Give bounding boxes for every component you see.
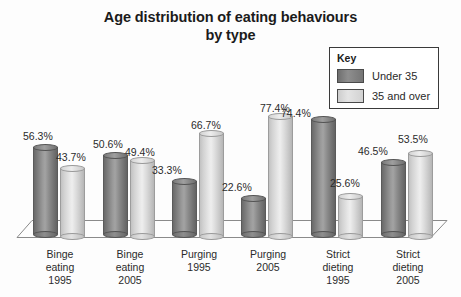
bar-body [241, 198, 266, 234]
bar-bottom-ellipse-icon [381, 231, 406, 238]
value-label-under35-strict-dieting-1995: 74.4% [281, 107, 311, 119]
legend-item-under-35: Under 35 [337, 67, 432, 85]
bar-body [172, 181, 197, 234]
value-label-under35-binge-eating-1995: 56.3% [23, 130, 53, 142]
bar-over35-strict-dieting-2005 [408, 153, 433, 236]
bar-bottom-ellipse-icon [199, 233, 224, 240]
x-label-strict-dieting-2005: Strict dieting 2005 [372, 248, 444, 287]
value-label-over35-binge-eating-1995: 43.7% [56, 151, 86, 163]
value-label-over35-purging-1995: 66.7% [191, 119, 221, 131]
bar-under35-binge-eating-2005 [103, 155, 128, 234]
chart-title: Age distribution of eating behaviours by… [0, 8, 461, 44]
bar-under35-purging-1995 [172, 181, 197, 234]
value-label-over35-strict-dieting-1995: 25.6% [330, 177, 360, 189]
bar-top-ellipse-icon [338, 193, 363, 200]
value-label-under35-strict-dieting-2005: 46.5% [358, 145, 388, 157]
legend-swatch-35-and-over-icon [337, 89, 364, 103]
legend-item-35-and-over: 35 and over [337, 87, 432, 105]
bar-under35-purging-2005 [241, 198, 266, 234]
bar-body [338, 196, 363, 236]
bar-bottom-ellipse-icon [172, 231, 197, 238]
bar-bottom-ellipse-icon [338, 233, 363, 240]
bar-top-ellipse-icon [381, 159, 406, 166]
bar-bottom-ellipse-icon [33, 231, 58, 238]
bar-bottom-ellipse-icon [268, 233, 293, 240]
bar-bottom-ellipse-icon [60, 233, 85, 240]
legend-label-under-35: Under 35 [372, 70, 417, 82]
x-label-binge-eating-2005: Binge eating 2005 [94, 248, 166, 287]
value-label-under35-binge-eating-2005: 50.6% [93, 138, 123, 150]
chart-title-line-2: by type [30, 26, 431, 44]
bar-body [199, 133, 224, 236]
bar-body [60, 168, 85, 236]
legend-swatch-under-35-icon [337, 69, 364, 83]
bar-under35-binge-eating-1995 [33, 147, 58, 234]
bar-over35-purging-1995 [199, 133, 224, 236]
bar-top-ellipse-icon [241, 195, 266, 202]
bar-top-ellipse-icon [60, 165, 85, 172]
bar-bottom-ellipse-icon [311, 231, 336, 238]
bar-body [381, 162, 406, 234]
bar-bottom-ellipse-icon [241, 231, 266, 238]
bar-body [33, 147, 58, 234]
bar-under35-strict-dieting-2005 [381, 162, 406, 234]
bar-body [268, 116, 293, 236]
bar-over35-strict-dieting-1995 [338, 196, 363, 236]
legend-title: Key [337, 52, 432, 64]
value-label-under35-purging-1995: 33.3% [152, 164, 182, 176]
bar-body [408, 153, 433, 236]
bar-over35-binge-eating-1995 [60, 168, 85, 236]
bar-top-ellipse-icon [311, 116, 336, 123]
bar-top-ellipse-icon [33, 144, 58, 151]
bar-bottom-ellipse-icon [103, 231, 128, 238]
x-label-binge-eating-1995: Binge eating 1995 [24, 248, 96, 287]
bar-top-ellipse-icon [172, 178, 197, 185]
bar-over35-purging-2005 [268, 116, 293, 236]
x-label-strict-dieting-1995: Strict dieting 1995 [302, 248, 374, 287]
chart-legend: Key Under 35 35 and over [329, 47, 439, 109]
value-label-under35-purging-2005: 22.6% [222, 181, 252, 193]
x-axis-category-labels: Binge eating 1995 Binge eating 2005 Purg… [0, 248, 461, 296]
bar-bottom-ellipse-icon [130, 233, 155, 240]
bar-top-ellipse-icon [408, 150, 433, 157]
bar-body [103, 155, 128, 234]
legend-label-35-and-over: 35 and over [372, 90, 430, 102]
value-label-over35-binge-eating-2005: 49.4% [125, 146, 155, 158]
x-label-purging-1995: Purging 1995 [163, 248, 235, 274]
chart-title-line-1: Age distribution of eating behaviours [30, 8, 431, 26]
x-label-purging-2005: Purging 2005 [232, 248, 304, 274]
bar-bottom-ellipse-icon [408, 233, 433, 240]
value-label-over35-strict-dieting-2005: 53.5% [398, 133, 428, 145]
chart-container: Age distribution of eating behaviours by… [0, 0, 461, 297]
